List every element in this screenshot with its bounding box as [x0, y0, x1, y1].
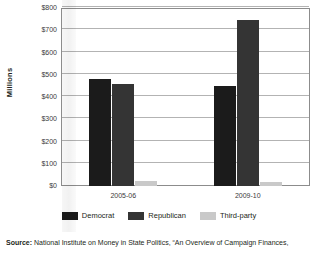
- legend-label: Republican: [148, 211, 186, 220]
- y-axis-tick-label: $100: [23, 160, 57, 167]
- chart-legend: DemocratRepublicanThird-party: [0, 211, 318, 220]
- legend-item-third-party[interactable]: Third-party: [200, 211, 256, 220]
- y-axis-tick-label: $500: [23, 71, 57, 78]
- y-axis-tick-label: $700: [23, 26, 57, 33]
- x-axis-tick-label: 2005-06: [88, 192, 158, 199]
- source-footer: Source: National Institute on Money in S…: [6, 239, 318, 247]
- x-axis-tick-label: 2009-10: [213, 192, 283, 199]
- legend-swatch-icon: [62, 212, 78, 220]
- bar-republican-2005-06: [112, 84, 134, 186]
- y-axis-tick-label: $400: [23, 93, 57, 100]
- y-axis-tick-label: $0: [23, 182, 57, 189]
- legend-swatch-icon: [128, 212, 144, 220]
- bar-democrat-2005-06: [89, 79, 111, 186]
- y-axis-tick-label: $800: [23, 4, 57, 11]
- bar-third-party-2005-06: [135, 181, 157, 186]
- legend-item-republican[interactable]: Republican: [128, 211, 186, 220]
- bar-democrat-2009-10: [214, 86, 236, 186]
- bar-republican-2009-10: [237, 20, 259, 186]
- y-axis-tick-label: $300: [23, 115, 57, 122]
- legend-swatch-icon: [200, 212, 216, 220]
- y-axis-title: Millions: [5, 53, 14, 113]
- y-axis-tick-label: $200: [23, 138, 57, 145]
- legend-item-democrat[interactable]: Democrat: [62, 211, 115, 220]
- gridline: [62, 6, 309, 7]
- legend-label: Democrat: [82, 211, 115, 220]
- source-label: Source:: [6, 239, 32, 246]
- bar-third-party-2009-10: [260, 182, 282, 186]
- bars-layer: [61, 8, 310, 186]
- source-text: National Institute on Money in State Pol…: [32, 239, 288, 246]
- legend-label: Third-party: [220, 211, 256, 220]
- y-axis-tick-label: $600: [23, 49, 57, 56]
- bar-chart-figure: Millions $0$100$200$300$400$500$600$700$…: [0, 0, 318, 233]
